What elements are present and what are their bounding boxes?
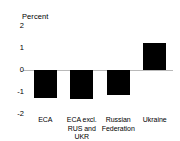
y-axis-unit-label: Percent — [22, 12, 49, 21]
bar — [70, 70, 93, 99]
bar-chart: Percent 210-1-2 ECAECA excl. RUS and UKR… — [0, 0, 180, 141]
y-axis-tick-label: 0 — [20, 66, 24, 74]
y-axis-tick-label: 1 — [20, 44, 24, 52]
y-axis-tick-label: -2 — [17, 110, 24, 118]
bar-slot — [70, 26, 93, 114]
bar-slot — [107, 26, 130, 114]
bar — [34, 70, 57, 98]
x-axis-category-label: Ukraine — [134, 116, 177, 125]
bar — [143, 43, 166, 71]
bar — [107, 70, 130, 95]
bar-slot — [34, 26, 57, 114]
bar-slot — [143, 26, 166, 114]
plot-area: 210-1-2 — [27, 26, 173, 114]
y-axis-tick-label: 2 — [20, 22, 24, 30]
y-axis-tick-label: -1 — [17, 88, 24, 96]
